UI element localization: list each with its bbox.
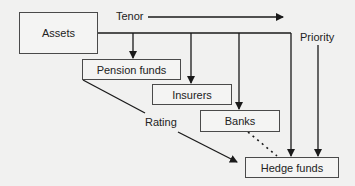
node-pension-funds-label: Pension funds <box>97 64 167 76</box>
node-assets: Assets <box>19 12 98 54</box>
node-banks: Banks <box>200 110 280 132</box>
label-tenor: Tenor <box>116 10 144 22</box>
label-priority: Priority <box>300 31 334 43</box>
flow-diagram: Assets Pension funds Insurers Banks Hedg… <box>0 0 355 186</box>
node-insurers-label: Insurers <box>172 89 212 101</box>
node-hedge-funds-label: Hedge funds <box>261 162 323 174</box>
rating-arrow-lower <box>178 132 237 162</box>
node-hedge-funds: Hedge funds <box>245 157 339 178</box>
node-insurers: Insurers <box>152 84 232 105</box>
node-assets-label: Assets <box>42 27 75 39</box>
label-rating: Rating <box>145 116 177 128</box>
dotted-banks-to-hedge-funds <box>248 132 277 156</box>
node-banks-label: Banks <box>225 115 256 127</box>
rating-line-upper <box>83 80 145 113</box>
node-pension-funds: Pension funds <box>82 59 181 80</box>
